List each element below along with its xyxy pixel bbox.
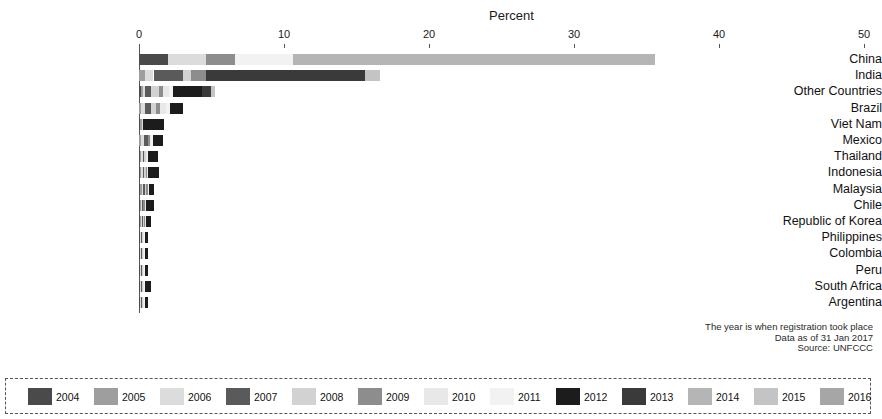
bar-segment: [211, 86, 215, 97]
legend-swatch: [820, 388, 844, 405]
bar-row: [0, 281, 882, 292]
bar-segment: [191, 70, 206, 81]
x-tick-mark: [719, 44, 720, 48]
legend-area: 2004200520062007200820092010201120122013…: [0, 376, 882, 419]
legend-label: 2013: [650, 391, 673, 403]
bar-segment: [145, 70, 154, 81]
bar-row: [0, 297, 882, 308]
legend-swatch: [292, 388, 316, 405]
legend-label: 2007: [254, 391, 277, 403]
chart-annotation-line: The year is when registration took place: [705, 322, 873, 333]
bar-row: [0, 103, 882, 114]
legend-swatch: [556, 388, 580, 405]
bar-segment: [148, 167, 158, 178]
bar-segment: [202, 86, 211, 97]
bar-row: [0, 54, 882, 65]
bar-segment: [168, 54, 206, 65]
bar-segment: [149, 184, 154, 195]
bar-segment: [143, 119, 163, 130]
bar-row: [0, 167, 882, 178]
bar-segment: [183, 70, 192, 81]
bar-row: [0, 248, 882, 259]
bar-row: [0, 265, 882, 276]
x-tick-mark: [284, 44, 285, 48]
legend-label: 2010: [452, 391, 475, 403]
legend-swatch: [688, 388, 712, 405]
x-axis-title: Percent: [489, 8, 534, 23]
bar-segment: [154, 70, 183, 81]
x-tick-mark: [864, 44, 865, 48]
legend-label: 2008: [320, 391, 343, 403]
legend-swatch: [28, 388, 52, 405]
legend-label: 2011: [518, 391, 541, 403]
legend-swatch: [490, 388, 514, 405]
bar-segment: [206, 70, 366, 81]
legend-swatch: [226, 388, 250, 405]
bar-segment: [145, 232, 148, 243]
bar-segment: [139, 54, 168, 65]
bar-row: [0, 86, 882, 97]
x-tick-label: 50: [858, 28, 870, 40]
x-tick-label: 20: [423, 28, 435, 40]
bar-segment: [293, 54, 656, 65]
legend-swatch: [754, 388, 778, 405]
bar-segment: [146, 216, 150, 227]
bar-segment: [145, 297, 148, 308]
bar-row: [0, 216, 882, 227]
legend-label: 2012: [584, 391, 607, 403]
bar-segment: [365, 70, 380, 81]
bar-row: [0, 119, 882, 130]
x-tick-label: 0: [136, 28, 142, 40]
bar-segment: [153, 135, 163, 146]
bar-segment: [151, 86, 158, 97]
x-tick-mark: [574, 44, 575, 48]
legend-box: 2004200520062007200820092010201120122013…: [5, 378, 871, 414]
legend-label: 2009: [386, 391, 409, 403]
legend-swatch: [160, 388, 184, 405]
x-tick-mark: [429, 44, 430, 48]
bar-segment: [145, 265, 148, 276]
legend-label: 2015: [782, 391, 805, 403]
bar-row: [0, 151, 882, 162]
bar-segment: [235, 54, 293, 65]
bar-segment: [148, 151, 158, 162]
x-tick-label: 10: [278, 28, 290, 40]
bar-segment: [145, 248, 148, 259]
legend-label: 2006: [188, 391, 211, 403]
legend-swatch: [622, 388, 646, 405]
bar-row: [0, 184, 882, 195]
x-tick-label: 30: [568, 28, 580, 40]
bar-row: [0, 135, 882, 146]
legend-swatch: [94, 388, 118, 405]
bar-row: [0, 200, 882, 211]
legend-label: 2014: [716, 391, 739, 403]
bar-row: [0, 232, 882, 243]
bar-row: [0, 70, 882, 81]
bar-segment: [146, 200, 154, 211]
legend-swatch: [358, 388, 382, 405]
bar-segment: [173, 86, 202, 97]
x-tick-label: 40: [713, 28, 725, 40]
bar-segment: [170, 103, 183, 114]
legend-swatch: [424, 388, 448, 405]
bar-segment: [206, 54, 235, 65]
legend-label: 2005: [122, 391, 145, 403]
chart-annotation-line: Source: UNFCCC: [798, 343, 874, 354]
legend-label: 2016: [848, 391, 871, 403]
legend-label: 2004: [56, 391, 79, 403]
bar-segment: [145, 281, 151, 292]
chart-plot-area: Percent 01020304050 ChinaIndiaOther Coun…: [0, 0, 882, 372]
